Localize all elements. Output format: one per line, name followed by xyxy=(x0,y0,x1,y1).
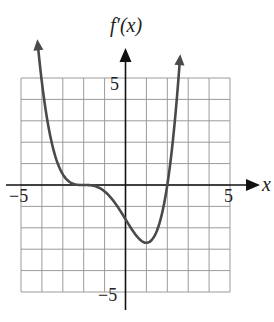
derivative-curve xyxy=(38,44,180,243)
y-axis-arrow-icon xyxy=(120,48,132,62)
chart-canvas xyxy=(0,0,274,322)
curve-arrowhead-icon xyxy=(174,54,184,65)
x-tick-max-label: 5 xyxy=(224,186,233,207)
y-tick-min-label: −5 xyxy=(98,285,117,306)
x-axis-label: x xyxy=(262,173,271,196)
y-tick-max-label: 5 xyxy=(110,74,119,95)
x-axis-arrow-icon xyxy=(246,179,260,191)
x-tick-min-label: −5 xyxy=(9,186,28,207)
curve-arrow-icons xyxy=(33,39,184,65)
y-axis-label: f′(x) xyxy=(110,14,142,37)
curve-arrowhead-icon xyxy=(33,39,43,50)
